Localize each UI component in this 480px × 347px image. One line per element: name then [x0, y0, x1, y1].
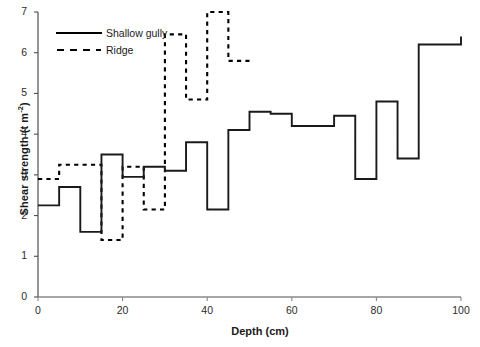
- y-axis-label-tail: ): [18, 102, 30, 106]
- y-tick-label: 2: [7, 209, 27, 221]
- legend-label-shallow-gully: Shallow gully: [106, 27, 167, 39]
- y-tick-label: 7: [7, 5, 27, 17]
- y-tick-label: 6: [7, 46, 27, 58]
- legend-label-ridge: Ridge: [106, 44, 133, 56]
- y-tick-label: 3: [7, 168, 27, 180]
- x-tick-label: 20: [108, 304, 138, 316]
- x-tick-label: 40: [192, 304, 222, 316]
- y-tick-label: 4: [7, 127, 27, 139]
- x-axis-label: Depth (cm): [0, 325, 480, 337]
- x-tick-label: 0: [23, 304, 53, 316]
- y-axis-label-exponent: -2: [16, 106, 25, 113]
- legend-item-ridge: Ridge: [56, 41, 167, 58]
- chart-figure: Shear strength (t m-2) Depth (cm) 012345…: [0, 0, 480, 347]
- y-tick-label: 0: [7, 290, 27, 302]
- legend-key-dashed-line-icon: [56, 45, 102, 55]
- chart-legend: Shallow gully Ridge: [56, 24, 167, 58]
- x-tick-label: 80: [361, 304, 391, 316]
- series-line-shallow-gully: [38, 36, 461, 231]
- x-tick-label: 60: [277, 304, 307, 316]
- legend-item-shallow-gully: Shallow gully: [56, 24, 167, 41]
- y-tick-label: 5: [7, 86, 27, 98]
- x-axis-label-text: Depth (cm): [231, 325, 288, 337]
- y-tick-label: 1: [7, 249, 27, 261]
- legend-key-solid-line-icon: [56, 28, 102, 38]
- x-tick-label: 100: [446, 304, 476, 316]
